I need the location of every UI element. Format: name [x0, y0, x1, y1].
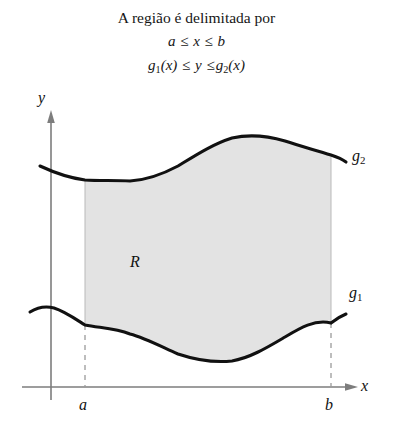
figure-region-bounded-by-curves: A região é delimitada por a ≤ x ≤ b g1(x… [0, 0, 393, 430]
curve-label-g1-subscript: 1 [357, 291, 362, 303]
curve-label-g1: g1 [349, 285, 362, 303]
caption-rel-leq-2: ≤ [204, 33, 214, 49]
region-fill-R [85, 136, 331, 362]
caption-line-2: a ≤ x ≤ b [0, 34, 393, 49]
caption-rel-leq-1: ≤ [179, 33, 189, 49]
x-tick-label-a: a [79, 397, 87, 413]
plot-area: y x a b R g2 g1 [0, 84, 393, 430]
y-axis-arrowhead [47, 110, 55, 123]
x-axis-arrowhead [345, 383, 358, 391]
caption-var-y: y [195, 57, 202, 73]
caption-rel-leq-4: ≤ [205, 57, 215, 73]
caption-var-x: x [193, 33, 200, 49]
curve-label-g2-subscript: 2 [360, 154, 365, 166]
curve-label-g2: g2 [352, 148, 365, 166]
region-label-R: R [130, 254, 140, 270]
caption-line-1: A região é delimitada por [0, 10, 393, 26]
caption-rel-leq-3: ≤ [181, 57, 191, 73]
caption-func-g1-argument: (x) [161, 57, 178, 73]
x-tick-label-b: b [325, 397, 333, 413]
caption-line-3: g1(x) ≤ y ≤g2(x) [0, 58, 393, 75]
curve-label-g2-base: g [352, 147, 360, 164]
caption-var-b: b [218, 33, 226, 49]
plot-svg [0, 84, 393, 430]
curve-label-g1-base: g [349, 284, 357, 301]
caption-var-a: a [168, 33, 176, 49]
x-axis-label: x [361, 378, 368, 394]
caption-func-g1: g [148, 57, 156, 73]
caption-func-g2-argument: (x) [228, 57, 245, 73]
y-axis-label: y [38, 90, 45, 106]
